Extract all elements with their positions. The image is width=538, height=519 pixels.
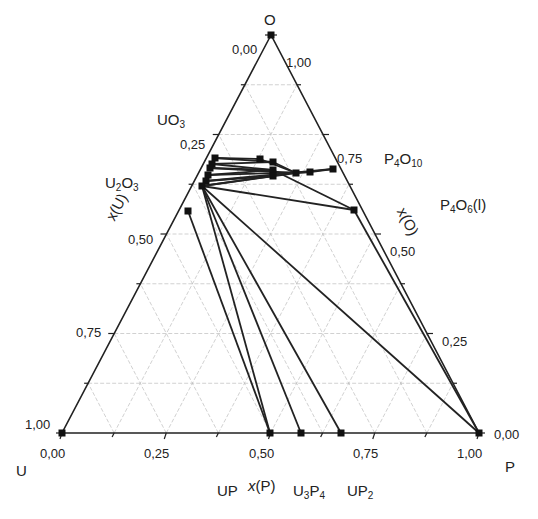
tick-left-0: 0,00 bbox=[232, 43, 257, 56]
tick-right-1: 0,75 bbox=[337, 152, 362, 165]
label-uo3: UO3 bbox=[157, 112, 185, 130]
tick-right-0: 1,00 bbox=[286, 56, 311, 69]
tick-left-4: 1,00 bbox=[25, 418, 50, 431]
label-p4o6-liquid: P4O6(l) bbox=[440, 197, 486, 215]
axis-ticks bbox=[56, 35, 485, 439]
tick-left-3: 0,75 bbox=[76, 326, 101, 339]
tick-bottom-3: 0,75 bbox=[353, 447, 378, 460]
vertex-label-u: U bbox=[16, 463, 27, 478]
label-p4o10: P4O10 bbox=[384, 151, 422, 169]
tick-bottom-0: 0,00 bbox=[40, 447, 65, 460]
tick-right-4: 0,00 bbox=[494, 428, 519, 441]
label-u3p4: U3P4 bbox=[293, 483, 325, 501]
label-u2o3: U2O3 bbox=[105, 175, 139, 193]
tick-bottom-4: 1,00 bbox=[457, 447, 482, 460]
vertex-label-p: P bbox=[505, 459, 515, 474]
ternary-plot bbox=[0, 0, 538, 519]
tick-right-3: 0,25 bbox=[442, 335, 467, 348]
tick-left-1: 0,25 bbox=[180, 138, 205, 151]
axis-title-xp: x(P) bbox=[248, 478, 276, 493]
tick-left-2: 0,50 bbox=[128, 233, 153, 246]
label-up: UP bbox=[217, 483, 238, 498]
tick-bottom-1: 0,25 bbox=[144, 447, 169, 460]
tie-lines bbox=[188, 158, 479, 433]
vertex-label-o: O bbox=[264, 12, 276, 27]
label-up2: UP2 bbox=[347, 483, 373, 501]
tick-right-2: 0,50 bbox=[390, 245, 415, 258]
tick-bottom-2: 0,50 bbox=[249, 447, 274, 460]
